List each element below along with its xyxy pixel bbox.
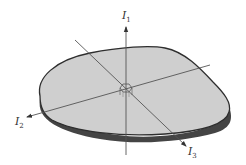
axis-label-i1: I1 — [122, 10, 131, 24]
plate-surface — [39, 47, 229, 135]
axis-label-i2: I2 — [15, 116, 24, 130]
inertia-diagram — [0, 0, 246, 165]
axis-label-i3: I3 — [188, 146, 197, 160]
